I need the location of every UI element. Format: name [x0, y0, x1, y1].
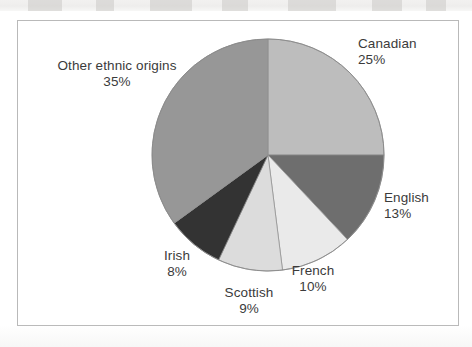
- pie-label-irish: Irish 8%: [164, 248, 190, 280]
- pie-label-scottish-name: Scottish: [225, 285, 274, 301]
- pie-label-other-ethnic-origins: Other ethnic origins 35%: [57, 58, 176, 90]
- pie-label-other-ethnic-origins-name: Other ethnic origins: [57, 58, 176, 74]
- pie-label-english: English 13%: [384, 190, 429, 222]
- pie-label-scottish: Scottish 9%: [225, 285, 274, 317]
- pie-label-irish-value: 8%: [164, 264, 190, 280]
- pie-label-english-name: English: [384, 190, 429, 206]
- pie-chart: Canadian 25% English 13% French 10% Scot…: [0, 0, 472, 347]
- pie-label-canadian-name: Canadian: [358, 36, 417, 52]
- pie-label-french: French 10%: [292, 263, 335, 295]
- paper-wash: [0, 325, 472, 347]
- pie-label-scottish-value: 9%: [225, 301, 274, 317]
- pie-label-french-name: French: [292, 263, 335, 279]
- pie-label-canadian: Canadian 25%: [358, 36, 417, 68]
- page-root: Canadian 25% English 13% French 10% Scot…: [0, 0, 472, 347]
- pie-label-other-ethnic-origins-value: 35%: [57, 74, 176, 90]
- pie-label-irish-name: Irish: [164, 248, 190, 264]
- pie-label-english-value: 13%: [384, 206, 429, 222]
- pie-label-french-value: 10%: [292, 279, 335, 295]
- pie-label-canadian-value: 25%: [358, 52, 417, 68]
- pie-slice-group: [152, 39, 384, 271]
